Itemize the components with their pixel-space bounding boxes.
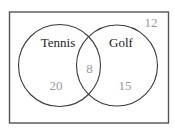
- intersection-count: 8: [86, 61, 93, 76]
- venn-diagram: Tennis Golf 20 8 15 12: [0, 0, 175, 129]
- golf-label: Golf: [109, 35, 134, 50]
- tennis-label: Tennis: [41, 35, 75, 50]
- tennis-only-count: 20: [50, 78, 63, 93]
- outside-count: 12: [145, 15, 158, 30]
- golf-only-count: 15: [119, 78, 132, 93]
